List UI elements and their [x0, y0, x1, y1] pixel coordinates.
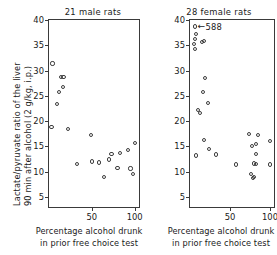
- figure-scatter-panels: Lactate/pyruvate ratio of the liver 90 m…: [0, 0, 277, 255]
- x-axis-tick: [135, 207, 136, 211]
- y-axis-tick: [45, 71, 49, 72]
- data-point: [201, 90, 205, 94]
- data-point: [126, 148, 130, 152]
- data-point: [75, 162, 79, 166]
- y-axis-tick: [45, 146, 49, 147]
- y-axis-tick: [186, 172, 190, 173]
- data-point: [50, 61, 54, 65]
- panel-female-rats: 28 female rats 51015202530354050100←588 …: [165, 0, 277, 255]
- y-axis-tick-label: 35: [174, 40, 185, 50]
- y-axis-tick-label: 5: [180, 192, 185, 202]
- data-point: [118, 151, 122, 155]
- plot-area-female: 51015202530354050100←588: [189, 19, 275, 208]
- x-axis-label-male-line1: Percentage alcohol drunk: [30, 226, 148, 236]
- x-axis-tick-label: 50: [87, 212, 98, 222]
- data-point: [202, 39, 206, 43]
- annotation-arrow-icon: ←: [197, 22, 205, 31]
- data-point: [133, 141, 137, 145]
- y-axis-tick: [186, 121, 190, 122]
- panel-title-male: 21 male rats: [34, 7, 152, 17]
- y-axis-tick: [186, 146, 190, 147]
- data-point: [198, 111, 202, 115]
- x-axis-tick: [92, 207, 93, 211]
- data-point: [207, 147, 211, 151]
- data-point: [131, 172, 135, 176]
- y-axis-tick-label: 25: [174, 91, 185, 101]
- data-point: [55, 102, 59, 106]
- x-axis-tick-label: 100: [262, 212, 277, 222]
- y-axis-tick: [45, 121, 49, 122]
- data-point: [192, 42, 196, 46]
- data-point: [203, 76, 207, 80]
- data-point: [194, 153, 198, 157]
- data-point: [193, 24, 197, 28]
- data-point: [234, 162, 238, 166]
- x-axis-tick-label: 100: [127, 212, 143, 222]
- y-axis-label: Lactate/pyruvate ratio of the liver 90 m…: [0, 0, 30, 212]
- data-point: [66, 127, 70, 131]
- y-axis-tick: [45, 172, 49, 173]
- x-axis-label-male-line2: in prior free choice test: [30, 238, 148, 248]
- y-axis-tick-label: 40: [174, 15, 185, 25]
- data-point: [247, 132, 251, 136]
- y-axis-tick-label: 20: [174, 116, 185, 126]
- y-axis-tick-label: 35: [33, 40, 44, 50]
- y-axis-tick-label: 30: [33, 66, 44, 76]
- data-point: [193, 47, 197, 51]
- data-point: [115, 166, 119, 170]
- y-axis-tick-label: 5: [39, 192, 44, 202]
- data-point: [49, 125, 53, 129]
- data-point: [57, 90, 61, 94]
- data-point: [109, 152, 113, 156]
- x-axis-tick: [270, 207, 271, 211]
- y-axis-tick: [45, 45, 49, 46]
- y-axis-tick: [186, 45, 190, 46]
- data-point: [254, 152, 258, 156]
- y-axis-tick: [186, 20, 190, 21]
- data-point: [61, 85, 65, 89]
- data-point: [268, 162, 272, 166]
- data-point: [97, 160, 101, 164]
- data-point: [252, 175, 256, 179]
- data-point: [254, 162, 258, 166]
- data-point: [90, 159, 94, 163]
- y-axis-tick-label: 25: [33, 91, 44, 101]
- y-axis-tick: [186, 71, 190, 72]
- data-point: [107, 157, 111, 161]
- x-axis-tick: [230, 207, 231, 211]
- data-point: [202, 138, 206, 142]
- data-point: [61, 75, 65, 79]
- x-axis-label-female-line2: in prior free choice test: [165, 238, 277, 248]
- panel-male-rats: 21 male rats 51015202530354050100 Percen…: [30, 0, 148, 255]
- y-axis-tick-label: 15: [174, 141, 185, 151]
- data-point: [128, 166, 132, 170]
- y-axis-tick: [186, 197, 190, 198]
- y-axis-tick-label: 30: [174, 66, 185, 76]
- y-axis-tick-label: 15: [33, 141, 44, 151]
- data-point: [102, 175, 106, 179]
- x-axis-tick-label: 50: [225, 212, 236, 222]
- data-point: [214, 152, 218, 156]
- x-axis-label-female-line1: Percentage alcohol drunk: [165, 226, 277, 236]
- y-axis-tick-label: 10: [33, 167, 44, 177]
- data-point: [268, 139, 272, 143]
- y-axis-tick-label: 20: [33, 116, 44, 126]
- y-axis-tick: [45, 197, 49, 198]
- data-point: [89, 133, 93, 137]
- y-axis-tick: [45, 20, 49, 21]
- data-point: [254, 142, 258, 146]
- y-axis-tick-label: 10: [174, 167, 185, 177]
- data-point: [206, 101, 210, 105]
- y-axis-tick: [186, 96, 190, 97]
- data-point: [193, 37, 197, 41]
- data-point: [256, 133, 260, 137]
- y-axis-label-line1: Lactate/pyruvate ratio of the liver: [12, 62, 22, 206]
- data-point: [194, 32, 198, 36]
- y-axis-tick: [45, 96, 49, 97]
- y-axis-tick-label: 40: [33, 15, 44, 25]
- annotation-label: 588: [205, 22, 222, 32]
- plot-area-male: 51015202530354050100: [48, 19, 140, 208]
